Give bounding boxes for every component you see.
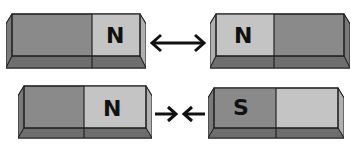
pole-label: S <box>233 97 249 119</box>
pole-label: N <box>234 25 252 47</box>
converging-arrows-icon <box>153 104 207 124</box>
magnet-row1-left: N <box>6 12 144 62</box>
magnet-row1-right: N <box>210 12 348 62</box>
pole-label: N <box>106 25 124 47</box>
magnet-row2-left: N <box>18 84 156 134</box>
magnet-row2-right: S <box>208 86 346 136</box>
pole-label: N <box>103 98 121 120</box>
double-headed-arrow-icon <box>149 33 207 53</box>
